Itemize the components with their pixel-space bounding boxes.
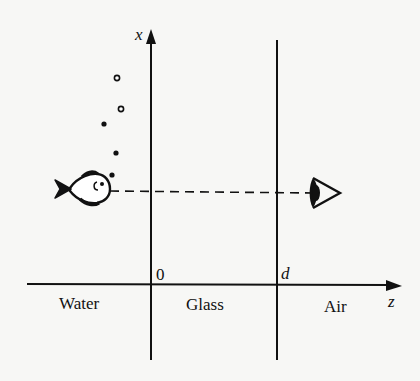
z-axis-arrow-icon	[386, 280, 402, 291]
fish-icon	[55, 172, 110, 205]
bubble-icon	[109, 172, 114, 177]
bubbles	[101, 75, 123, 177]
x-axis-arrow-icon	[146, 29, 156, 44]
region-label-water: Water	[59, 295, 99, 312]
z-axis-label: z	[388, 293, 395, 310]
line-of-sight-dashed	[110, 191, 313, 193]
observer-eye-icon	[310, 178, 340, 208]
region-label-air: Air	[324, 298, 347, 315]
region-label-glass: Glass	[186, 296, 224, 313]
bubble-icon	[113, 150, 118, 155]
bubble-icon	[101, 121, 106, 126]
glass-air-interface-label: d	[281, 265, 290, 282]
origin-label: 0	[156, 266, 165, 283]
bubble-icon	[118, 106, 123, 111]
x-axis-label: x	[135, 26, 143, 43]
diagram-canvas	[0, 0, 420, 381]
z-axis	[27, 280, 402, 291]
bubble-icon	[114, 75, 119, 80]
x-axis	[146, 29, 156, 360]
